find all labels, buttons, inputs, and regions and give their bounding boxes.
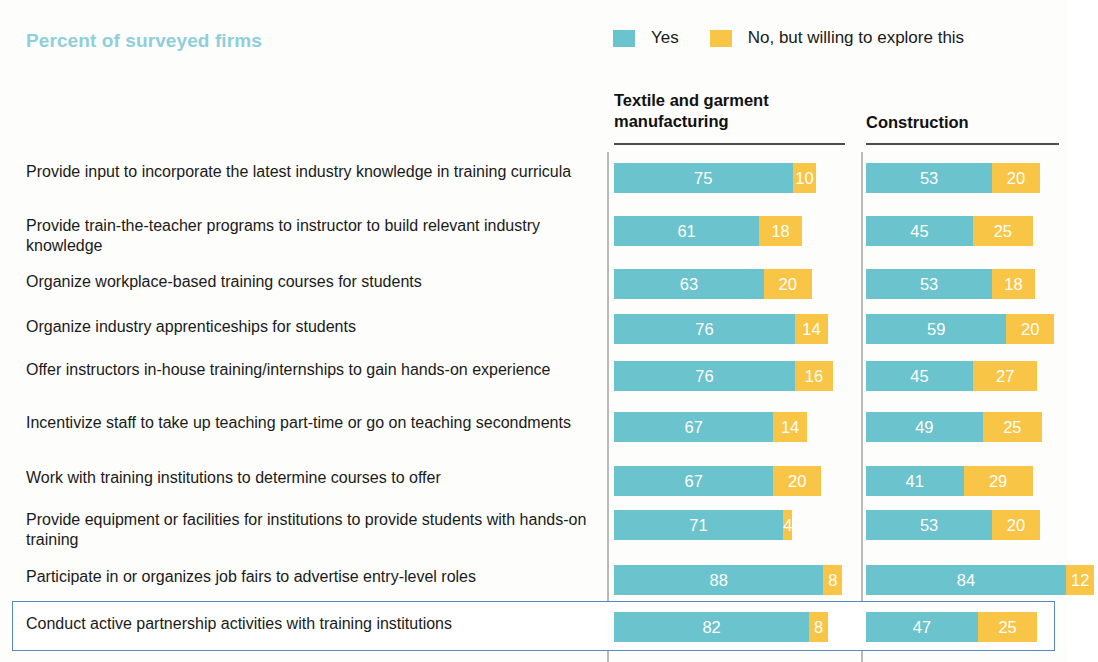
bar-value-yes: 82 xyxy=(702,619,720,636)
bar-value-yes: 88 xyxy=(710,572,728,589)
bar-segment-yes: 53 xyxy=(866,269,992,299)
bar-value-yes: 59 xyxy=(927,321,945,338)
bar-segment-no: 27 xyxy=(973,361,1037,391)
bar-segment-yes: 59 xyxy=(866,314,1006,344)
bar-segment-no: 25 xyxy=(978,612,1038,642)
bar-value-no: 18 xyxy=(771,223,789,240)
bar-group-textile: 7614 xyxy=(614,314,852,344)
bar-value-no: 20 xyxy=(788,473,806,490)
row-label: Provide input to incorporate the latest … xyxy=(26,162,601,182)
bar-value-no: 25 xyxy=(998,619,1016,636)
bar-value-no: 20 xyxy=(779,276,797,293)
bar-segment-yes: 84 xyxy=(866,565,1066,595)
bar-segment-no: 20 xyxy=(1006,314,1054,344)
bar-value-no: 8 xyxy=(814,619,823,636)
bar-segment-no: 10 xyxy=(793,163,817,193)
bar-segment-yes: 61 xyxy=(614,216,759,246)
bar-segment-no: 18 xyxy=(992,269,1035,299)
bar-value-no: 4 xyxy=(783,517,792,534)
bar-segment-yes: 45 xyxy=(866,216,973,246)
row-label: Organize industry apprenticeships for st… xyxy=(26,317,601,337)
bar-value-no: 16 xyxy=(805,368,823,385)
bar-group-construction: 8412 xyxy=(866,565,1098,595)
bar-value-no: 14 xyxy=(802,321,820,338)
bar-value-no: 20 xyxy=(1007,517,1025,534)
bar-value-yes: 67 xyxy=(685,419,703,436)
bar-value-yes: 53 xyxy=(920,517,938,534)
bar-segment-yes: 53 xyxy=(866,163,992,193)
bar-group-textile: 6714 xyxy=(614,412,852,442)
bar-segment-yes: 67 xyxy=(614,466,773,496)
bar-group-construction: 5320 xyxy=(866,510,1098,540)
bar-value-no: 27 xyxy=(996,368,1014,385)
row-label: Offer instructors in-house training/inte… xyxy=(26,360,601,380)
bar-value-no: 10 xyxy=(795,170,813,187)
row-label: Conduct active partnership activities wi… xyxy=(26,614,601,634)
bar-segment-yes: 88 xyxy=(614,565,823,595)
bar-segment-yes: 47 xyxy=(866,612,978,642)
bar-segment-yes: 76 xyxy=(614,361,795,391)
bar-group-construction: 5320 xyxy=(866,163,1098,193)
bar-segment-no: 20 xyxy=(992,163,1040,193)
bar-segment-no: 20 xyxy=(773,466,821,496)
bar-segment-no: 20 xyxy=(764,269,812,299)
bar-value-yes: 76 xyxy=(695,368,713,385)
bar-segment-no: 25 xyxy=(973,216,1033,246)
bar-group-textile: 6720 xyxy=(614,466,852,496)
bar-segment-no: 25 xyxy=(983,412,1043,442)
bar-group-textile: 7510 xyxy=(614,163,852,193)
bar-group-construction: 5920 xyxy=(866,314,1098,344)
bar-value-yes: 84 xyxy=(957,572,975,589)
bar-segment-no: 8 xyxy=(823,565,842,595)
bar-segment-yes: 63 xyxy=(614,269,764,299)
bar-segment-yes: 45 xyxy=(866,361,973,391)
bar-group-textile: 888 xyxy=(614,565,852,595)
bar-group-textile: 7616 xyxy=(614,361,852,391)
bar-value-yes: 61 xyxy=(677,223,695,240)
bar-segment-yes: 76 xyxy=(614,314,795,344)
bar-value-no: 20 xyxy=(1007,170,1025,187)
bar-value-yes: 53 xyxy=(920,276,938,293)
row-label: Work with training institutions to deter… xyxy=(26,468,601,488)
bar-group-construction: 5318 xyxy=(866,269,1098,299)
bar-value-no: 25 xyxy=(1003,419,1021,436)
bar-segment-yes: 53 xyxy=(866,510,992,540)
bar-value-yes: 41 xyxy=(906,473,924,490)
bar-value-yes: 76 xyxy=(695,321,713,338)
bar-value-no: 29 xyxy=(989,473,1007,490)
bar-value-no: 12 xyxy=(1071,572,1089,589)
bar-segment-yes: 82 xyxy=(614,612,809,642)
bar-segment-no: 20 xyxy=(992,510,1040,540)
bar-segment-yes: 75 xyxy=(614,163,793,193)
bar-segment-no: 16 xyxy=(795,361,833,391)
bar-segment-yes: 41 xyxy=(866,466,964,496)
bar-value-yes: 45 xyxy=(910,223,928,240)
bar-group-construction: 4527 xyxy=(866,361,1098,391)
bar-group-textile: 6118 xyxy=(614,216,852,246)
bar-group-construction: 4525 xyxy=(866,216,1098,246)
bar-segment-yes: 71 xyxy=(614,510,783,540)
bar-segment-no: 18 xyxy=(759,216,802,246)
bar-segment-no: 14 xyxy=(795,314,828,344)
bar-group-construction: 4925 xyxy=(866,412,1098,442)
bar-group-construction: 4129 xyxy=(866,466,1098,496)
bar-segment-no: 14 xyxy=(773,412,806,442)
row-label: Organize workplace-based training course… xyxy=(26,272,601,292)
bar-segment-yes: 67 xyxy=(614,412,773,442)
bar-group-textile: 828 xyxy=(614,612,852,642)
bar-value-yes: 53 xyxy=(920,170,938,187)
row-label: Incentivize staff to take up teaching pa… xyxy=(26,413,601,433)
bar-value-yes: 47 xyxy=(913,619,931,636)
bar-segment-no: 8 xyxy=(809,612,828,642)
bar-segment-no: 4 xyxy=(783,510,793,540)
bar-value-no: 18 xyxy=(1004,276,1022,293)
bar-value-yes: 75 xyxy=(694,170,712,187)
bar-value-no: 8 xyxy=(828,572,837,589)
bar-segment-no: 12 xyxy=(1066,565,1095,595)
bar-segment-no: 29 xyxy=(964,466,1033,496)
row-label: Provide equipment or facilities for inst… xyxy=(26,510,601,550)
bar-value-yes: 45 xyxy=(910,368,928,385)
bar-value-yes: 49 xyxy=(915,419,933,436)
